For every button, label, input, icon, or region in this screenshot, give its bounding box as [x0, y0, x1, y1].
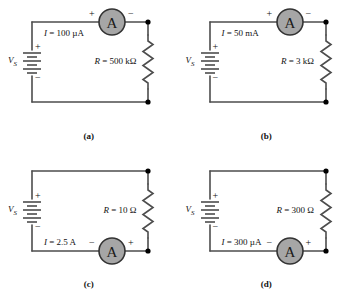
- resistor-symbol: [143, 35, 153, 89]
- resistor-symbol: [143, 184, 153, 238]
- current-label: I = 100 µA: [44, 28, 84, 38]
- panel-caption: (a): [0, 131, 178, 141]
- source-label: VS: [8, 55, 17, 68]
- source-plus-sign: +: [213, 191, 219, 201]
- circuit-panel-d: A−+VS+−I = 300 µAR = 300 Ω(d): [178, 149, 355, 297]
- resistor-symbol: [321, 35, 331, 89]
- panel-caption: (d): [178, 279, 355, 289]
- source-plus-sign: +: [35, 191, 41, 201]
- battery-symbol: [201, 53, 219, 73]
- current-label: I = 300 µA: [222, 237, 262, 247]
- panel-caption: (c): [0, 279, 178, 289]
- current-label: I = 2.5 A: [44, 237, 76, 247]
- ammeter-letter: A: [284, 243, 295, 259]
- source-label: VS: [186, 204, 195, 217]
- source-label: VS: [8, 204, 17, 217]
- ammeter-left-sign: +: [89, 9, 95, 19]
- junction-node: [145, 19, 150, 24]
- junction-node: [145, 168, 150, 173]
- panel-caption: (b): [178, 131, 355, 141]
- junction-node: [323, 19, 328, 24]
- ammeter-letter: A: [107, 243, 118, 259]
- source-plus-sign: +: [35, 42, 41, 52]
- source-minus-sign: −: [213, 222, 219, 232]
- battery-symbol: [23, 202, 41, 222]
- ammeter-letter: A: [107, 15, 118, 31]
- source-plus-sign: +: [213, 42, 219, 52]
- ammeter-left-sign: −: [267, 238, 273, 248]
- ammeter-left-sign: −: [89, 238, 95, 248]
- ammeter-right-sign: −: [128, 9, 134, 19]
- circuit-figure-grid: A+−VS+−I = 100 µAR = 500 kΩ(a)A+−VS+−I =…: [0, 0, 355, 297]
- source-minus-sign: −: [35, 222, 41, 232]
- source-minus-sign: −: [213, 73, 219, 83]
- junction-node: [145, 99, 150, 104]
- ammeter-right-sign: −: [306, 9, 312, 19]
- junction-node: [323, 99, 328, 104]
- junction-node: [323, 168, 328, 173]
- ammeter-left-sign: +: [267, 9, 273, 19]
- resistor-label: R = 300 Ω: [276, 205, 314, 215]
- resistor-label: R = 500 kΩ: [94, 56, 136, 66]
- ammeter-letter: A: [284, 15, 295, 31]
- ammeter-right-sign: +: [306, 238, 312, 248]
- resistor-symbol: [321, 184, 331, 238]
- current-label: I = 50 mA: [222, 28, 259, 38]
- resistor-label: R = 3 kΩ: [281, 56, 314, 66]
- junction-node: [323, 248, 328, 253]
- ammeter-right-sign: +: [128, 238, 134, 248]
- circuit-panel-a: A+−VS+−I = 100 µAR = 500 kΩ(a): [0, 0, 178, 149]
- source-minus-sign: −: [35, 73, 41, 83]
- circuit-panel-c: A−+VS+−I = 2.5 AR = 10 Ω(c): [0, 149, 178, 297]
- junction-node: [145, 248, 150, 253]
- circuit-panel-b: A+−VS+−I = 50 mAR = 3 kΩ(b): [178, 0, 355, 149]
- battery-symbol: [201, 202, 219, 222]
- resistor-label: R = 10 Ω: [103, 205, 136, 215]
- source-label: VS: [186, 55, 195, 68]
- battery-symbol: [23, 53, 41, 73]
